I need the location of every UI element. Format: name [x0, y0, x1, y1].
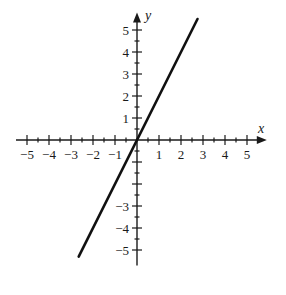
y-tick-label: −4 [115, 221, 129, 236]
x-axis-arrow-icon [257, 136, 267, 144]
y-axis-arrow-icon [133, 12, 141, 22]
series-line [79, 19, 198, 257]
y-tick-label: 3 [123, 67, 130, 82]
y-tick-label: 5 [123, 23, 130, 38]
x-tick-label: 1 [156, 147, 163, 162]
y-axis-label: y [143, 8, 152, 23]
y-tick-label: 1 [123, 111, 130, 126]
x-tick-label: −5 [20, 147, 34, 162]
x-tick-label: −3 [64, 147, 78, 162]
x-tick-label: −4 [42, 147, 56, 162]
x-tick-label: 2 [178, 147, 185, 162]
series-layer [79, 19, 198, 257]
y-tick-label: −3 [115, 199, 129, 214]
y-tick-label: 2 [123, 89, 130, 104]
x-axis-label: x [257, 121, 265, 136]
x-tick-label: −2 [86, 147, 100, 162]
x-tick-label: 5 [244, 147, 251, 162]
x-tick-label: 3 [200, 147, 207, 162]
y-tick-label: 4 [123, 45, 130, 60]
coordinate-plane: −5−4−3−2−112345−5−4−312345 x y [0, 0, 286, 295]
y-tick-label: −5 [115, 243, 129, 258]
x-tick-label: −1 [108, 147, 122, 162]
x-tick-label: 4 [222, 147, 229, 162]
